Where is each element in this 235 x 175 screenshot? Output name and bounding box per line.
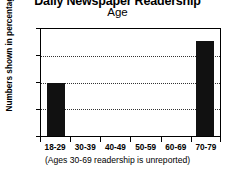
- x-label-50-59: 50-59: [131, 143, 161, 152]
- x-axis-ticks: [40, 137, 221, 142]
- x-label-70-79: 70-79: [191, 143, 221, 152]
- bar-cell-70-79: [190, 29, 220, 136]
- chart-subtitle: Age: [0, 5, 235, 19]
- x-label-40-49: 40-49: [100, 143, 130, 152]
- x-axis-labels: 18-29 30-39 40-49 50-59 60-69 70-79: [40, 143, 221, 152]
- x-label-18-29: 18-29: [40, 143, 70, 152]
- bar-cell-60-69: [160, 29, 190, 136]
- x-tick-5: [191, 137, 192, 142]
- bar-cell-18-29: [41, 29, 71, 136]
- x-tick-0: [40, 137, 41, 142]
- x-tick-1: [70, 137, 71, 142]
- x-label-60-69: 60-69: [161, 143, 191, 152]
- bar-18-29: [47, 83, 65, 137]
- x-tick-6: [220, 137, 221, 142]
- bar-cell-30-39: [71, 29, 101, 136]
- bar-70-79: [196, 41, 214, 136]
- newspaper-readership-chart: Daily Newspaper Readership Age Numbers s…: [0, 0, 235, 175]
- bar-cell-50-59: [130, 29, 160, 136]
- x-tick-4: [161, 137, 162, 142]
- y-axis-title: Numbers shown in percentages: [5, 0, 14, 112]
- bar-series: [41, 29, 220, 136]
- chart-caption: (Ages 30-69 readership is unreported): [0, 155, 235, 165]
- x-tick-3: [130, 137, 131, 142]
- x-tick-2: [100, 137, 101, 142]
- x-label-30-39: 30-39: [70, 143, 100, 152]
- bar-cell-40-49: [101, 29, 131, 136]
